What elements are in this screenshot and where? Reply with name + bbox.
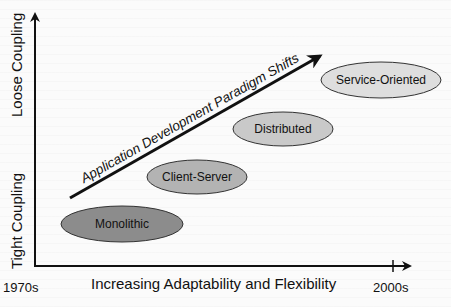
paradigm-label: Distributed (254, 122, 311, 136)
paradigm-label: Service-Oriented (336, 73, 426, 87)
paradigm-distributed: Distributed (233, 112, 333, 146)
y-axis-top-label: Loose Coupling (8, 17, 26, 117)
paradigm-service-oriented: Service-Oriented (321, 62, 441, 98)
x-axis-start-tick-label: 1970s (3, 280, 38, 295)
x-axis-end-tick-label: 2000s (373, 280, 408, 295)
x-axis-label: Increasing Adaptability and Flexibility (91, 275, 336, 292)
paradigm-diagram: Application Development Paradigm Shifts … (0, 0, 451, 307)
y-axis-bottom-label: Tight Coupling (8, 171, 26, 271)
paradigm-label: Client-Server (162, 170, 232, 184)
paradigm-client-server: Client-Server (147, 160, 247, 194)
paradigm-monolithic: Monolithic (61, 206, 183, 242)
paradigm-label: Monolithic (95, 217, 149, 231)
